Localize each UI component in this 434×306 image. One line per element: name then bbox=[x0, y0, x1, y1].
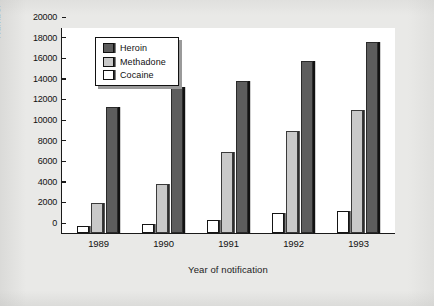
y-axis-tick-8000: 8000 bbox=[38, 136, 62, 146]
bar-heroin-1990 bbox=[171, 87, 183, 233]
bar-methadone-1993 bbox=[351, 110, 363, 233]
bar-group-1993: 1993 bbox=[337, 28, 381, 233]
y-axis-tick-10000: 10000 bbox=[33, 115, 62, 125]
bar-cocaine-1991 bbox=[207, 220, 219, 233]
legend-swatch-methadone bbox=[103, 57, 114, 67]
legend-swatch-heroin bbox=[103, 43, 114, 53]
legend-item-heroin: Heroin bbox=[103, 43, 166, 53]
bar-cocaine-1990 bbox=[142, 224, 154, 233]
y-axis-tick-18000: 18000 bbox=[33, 33, 62, 43]
legend-item-cocaine: Cocaine bbox=[103, 70, 166, 80]
bar-heroin-1991 bbox=[236, 81, 248, 233]
bar-methadone-1991 bbox=[221, 152, 233, 233]
x-axis-tick-label-1992: 1992 bbox=[283, 238, 304, 249]
legend-label-heroin: Heroin bbox=[120, 43, 147, 53]
y-axis-tick-14000: 14000 bbox=[33, 74, 62, 84]
x-axis-tick-label-1993: 1993 bbox=[348, 238, 369, 249]
bar-group-1991: 1991 bbox=[207, 28, 251, 233]
bar-methadone-1989 bbox=[91, 203, 103, 233]
x-axis-tick-label-1991: 1991 bbox=[218, 238, 239, 249]
x-axis-tick-label-1989: 1989 bbox=[88, 238, 109, 249]
y-axis-tick-4000: 4000 bbox=[38, 177, 62, 187]
bar-methadone-1992 bbox=[286, 131, 298, 233]
y-axis-tick-2000: 2000 bbox=[38, 197, 62, 207]
chart-legend: Heroin Methadone Cocaine bbox=[95, 37, 179, 86]
bar-cocaine-1992 bbox=[272, 213, 284, 233]
y-axis-tickmark bbox=[62, 17, 66, 18]
bar-group-1992: 1992 bbox=[272, 28, 316, 233]
y-axis-tick-20000: 20000 bbox=[33, 12, 62, 22]
legend-item-methadone: Methadone bbox=[103, 57, 166, 67]
bar-cocaine-1989 bbox=[77, 226, 89, 233]
x-axis-tick-label-1990: 1990 bbox=[153, 238, 174, 249]
y-axis-tick-16000: 16000 bbox=[33, 53, 62, 63]
y-axis-tick-12000: 12000 bbox=[33, 94, 62, 104]
bar-heroin-1992 bbox=[301, 61, 313, 233]
bar-chart-figure: Number of notifications 0200040006000800… bbox=[0, 0, 434, 306]
y-axis-title: Number of notifications bbox=[0, 0, 2, 64]
bar-cocaine-1993 bbox=[337, 211, 349, 233]
bar-heroin-1993 bbox=[366, 42, 378, 233]
legend-label-methadone: Methadone bbox=[120, 57, 166, 67]
plot-area: 0200040006000800010000120001400016000180… bbox=[61, 28, 395, 234]
legend-label-cocaine: Cocaine bbox=[120, 70, 154, 80]
bar-methadone-1990 bbox=[156, 184, 168, 233]
bar-heroin-1989 bbox=[106, 107, 118, 233]
x-axis-title: Year of notification bbox=[61, 264, 395, 275]
y-axis-tick-0: 0 bbox=[52, 218, 62, 228]
legend-swatch-cocaine bbox=[103, 70, 114, 80]
y-axis-tick-6000: 6000 bbox=[38, 156, 62, 166]
